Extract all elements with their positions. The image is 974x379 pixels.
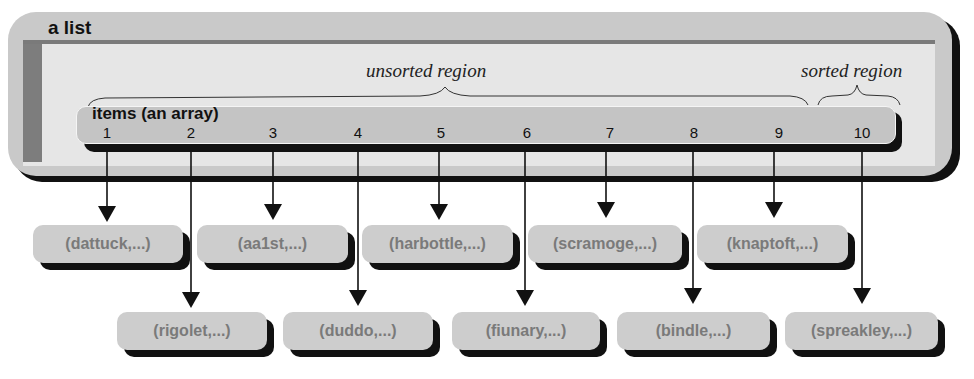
pointer-arrows bbox=[0, 0, 974, 379]
